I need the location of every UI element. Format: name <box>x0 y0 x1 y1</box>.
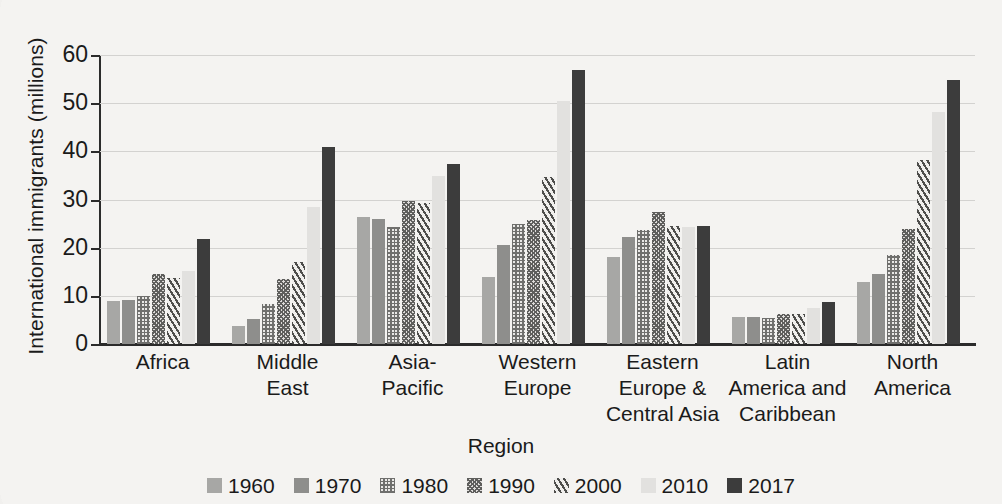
bar-1990 <box>402 201 415 344</box>
bar-1980 <box>262 304 275 344</box>
bar-1970 <box>747 317 760 344</box>
bar-2000 <box>292 262 305 344</box>
bar-2017 <box>697 226 710 344</box>
bar-group-bars <box>732 55 835 344</box>
x-axis-group-label-line: America and <box>729 375 847 401</box>
bar-1970 <box>872 274 885 344</box>
legend-item-1960[interactable]: 1960 <box>207 475 275 496</box>
bar-1990 <box>152 274 165 344</box>
x-axis-group-label-line: Latin <box>729 349 847 375</box>
y-tick-mark-10 <box>91 296 100 298</box>
bar-2017 <box>322 147 335 344</box>
bar-1960 <box>107 301 120 344</box>
y-tick-mark-50 <box>91 103 100 105</box>
bar-group-bars <box>357 55 460 344</box>
bar-2017 <box>447 164 460 344</box>
bar-2000 <box>667 226 680 344</box>
bar-group-bars <box>482 55 585 344</box>
bar-group: MiddleEast <box>225 55 350 344</box>
legend-label: 1980 <box>401 475 448 496</box>
bar-1980 <box>887 255 900 344</box>
x-axis-group-label-line: Africa <box>136 349 190 375</box>
bar-group: WesternEurope <box>475 55 600 344</box>
y-tick-mark-20 <box>91 248 100 250</box>
y-tick-mark-40 <box>91 151 100 153</box>
legend-label: 2017 <box>748 475 795 496</box>
x-axis-title: Region <box>0 434 1002 458</box>
bar-1980 <box>387 227 400 344</box>
bar-2000 <box>542 177 555 344</box>
x-axis-group-label-line: Asia- <box>382 349 444 375</box>
bar-1960 <box>357 217 370 344</box>
bar-1990 <box>777 314 790 344</box>
bar-1970 <box>622 237 635 344</box>
x-axis-group-label-line: America <box>874 375 951 401</box>
x-axis-group-label: NorthAmerica <box>874 349 951 401</box>
y-tick-label-60: 60 <box>38 43 88 66</box>
x-axis-group-label: Asia-Pacific <box>382 349 444 401</box>
y-tick-mark-30 <box>91 200 100 202</box>
chart-legend: 1960197019801990200020102017 <box>0 475 1002 496</box>
bar-group-bars <box>232 55 335 344</box>
legend-swatch-icon-2000 <box>554 478 569 493</box>
legend-label: 1990 <box>488 475 535 496</box>
bar-1990 <box>277 279 290 344</box>
bar-2000 <box>417 203 430 344</box>
bar-2010 <box>307 207 320 344</box>
bar-group: NorthAmerica <box>850 55 975 344</box>
y-tick-label-0: 0 <box>38 332 88 355</box>
legend-swatch-icon-1960 <box>207 478 222 493</box>
x-axis-group-label-line: Europe <box>499 375 577 401</box>
y-tick-label-40: 40 <box>38 139 88 162</box>
bar-group: Asia-Pacific <box>350 55 475 344</box>
bar-1980 <box>762 318 775 344</box>
x-axis-group-label: WesternEurope <box>499 349 577 401</box>
bar-1970 <box>372 219 385 344</box>
x-axis-group-label: Africa <box>136 349 190 375</box>
bar-1970 <box>497 245 510 344</box>
y-tick-mark-0 <box>91 344 100 346</box>
legend-item-1970[interactable]: 1970 <box>294 475 362 496</box>
x-axis-group-label-line: Pacific <box>382 375 444 401</box>
x-axis-group-label: EasternEurope &Central Asia <box>606 349 719 427</box>
bar-2010 <box>807 308 820 344</box>
legend-swatch-icon-1980 <box>380 478 395 493</box>
x-axis-group-label-line: Middle <box>257 349 319 375</box>
bar-2017 <box>822 302 835 344</box>
x-axis-group-label-line: East <box>257 375 319 401</box>
bar-1990 <box>652 212 665 344</box>
legend-item-2000[interactable]: 2000 <box>554 475 622 496</box>
bar-2010 <box>682 227 695 344</box>
bar-1990 <box>902 229 915 344</box>
bar-1960 <box>232 326 245 344</box>
legend-label: 1960 <box>228 475 275 496</box>
legend-item-2010[interactable]: 2010 <box>641 475 709 496</box>
bar-chart: International immigrants (millions) 0102… <box>0 0 1002 504</box>
y-tick-label-10: 10 <box>38 284 88 307</box>
x-axis-group-label-line: North <box>874 349 951 375</box>
x-axis-group-label-line: Western <box>499 349 577 375</box>
bar-1990 <box>527 220 540 344</box>
x-axis-group-label-line: Central Asia <box>606 401 719 427</box>
legend-item-1980[interactable]: 1980 <box>380 475 448 496</box>
bar-2000 <box>167 278 180 344</box>
legend-label: 2010 <box>662 475 709 496</box>
bar-group: EasternEurope &Central Asia <box>600 55 725 344</box>
y-tick-label-30: 30 <box>38 188 88 211</box>
bar-group-bars <box>107 55 210 344</box>
x-axis-group-label-line: Europe & <box>606 375 719 401</box>
legend-swatch-icon-2017 <box>727 478 742 493</box>
bar-2010 <box>932 112 945 344</box>
bar-2010 <box>182 271 195 344</box>
bar-1960 <box>482 277 495 344</box>
bar-2000 <box>792 314 805 344</box>
y-tick-label-50: 50 <box>38 91 88 114</box>
legend-item-2017[interactable]: 2017 <box>727 475 795 496</box>
bar-2017 <box>572 70 585 344</box>
bar-1970 <box>122 300 135 344</box>
legend-swatch-icon-2010 <box>641 478 656 493</box>
bar-1960 <box>732 317 745 344</box>
bar-group-bars <box>857 55 960 344</box>
x-axis-group-label-line: Eastern <box>606 349 719 375</box>
legend-item-1990[interactable]: 1990 <box>467 475 535 496</box>
